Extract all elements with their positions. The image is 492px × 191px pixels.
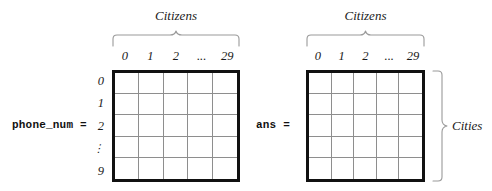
- matrix-cell: [354, 73, 377, 94]
- matrix-cell: [309, 137, 332, 158]
- matrix-cell: [188, 73, 212, 94]
- matrix-cell: [213, 137, 237, 158]
- matrix-cell: [332, 115, 355, 136]
- column-labels-ans: 0 1 2 ... 29: [306, 50, 425, 63]
- matrix-cell: [164, 158, 188, 179]
- matrix-phone-num: [112, 70, 240, 182]
- matrix-cell: [213, 115, 237, 136]
- top-brace-ans: [306, 31, 425, 47]
- matrix-cell: [377, 137, 400, 158]
- matrix-cell: [213, 94, 237, 115]
- matrix-cell: [139, 137, 163, 158]
- matrix-cell: [309, 115, 332, 136]
- row-label: ⋮: [86, 137, 104, 159]
- matrix-cell: [115, 115, 139, 136]
- column-label: ...: [377, 50, 401, 63]
- matrix-cell: [188, 115, 212, 136]
- row-label: 2: [86, 115, 104, 137]
- matrix-cell: [309, 158, 332, 179]
- matrix-cell: [164, 73, 188, 94]
- matrix-cell: [354, 137, 377, 158]
- column-label: 0: [306, 50, 330, 63]
- column-label: 29: [214, 50, 240, 63]
- column-label: 2: [354, 50, 378, 63]
- matrix-cell: [354, 94, 377, 115]
- matrix-cell: [115, 137, 139, 158]
- side-axis-title-ans: Cities: [452, 118, 482, 134]
- row-labels-phone-num: 0 1 2 ⋮ 9: [86, 70, 104, 182]
- matrix-cell: [377, 73, 400, 94]
- column-label: 1: [138, 50, 164, 63]
- column-label: ...: [189, 50, 215, 63]
- column-label: 0: [112, 50, 138, 63]
- matrix-cell: [164, 94, 188, 115]
- row-label: 9: [86, 160, 104, 182]
- matrix-cell: [309, 94, 332, 115]
- figure-canvas: Citizens 0 1 2 ... 29 phone_num = 0 1 2 …: [0, 0, 492, 191]
- row-label: 1: [86, 92, 104, 114]
- column-label: 2: [163, 50, 189, 63]
- matrix-cell: [213, 158, 237, 179]
- matrix-cell: [332, 94, 355, 115]
- variable-label-ans: ans =: [256, 119, 290, 131]
- row-label: 0: [86, 70, 104, 92]
- matrix-cell: [188, 137, 212, 158]
- matrix-cell: [399, 115, 422, 136]
- matrix-cell: [115, 158, 139, 179]
- matrix-ans: [306, 70, 425, 182]
- matrix-cell: [139, 94, 163, 115]
- matrix-cell: [332, 158, 355, 179]
- top-axis-title-ans: Citizens: [306, 8, 425, 24]
- matrix-cell: [399, 73, 422, 94]
- matrix-cell: [115, 94, 139, 115]
- matrix-cell: [164, 115, 188, 136]
- matrix-cell: [354, 158, 377, 179]
- variable-label-phone-num: phone_num =: [12, 119, 87, 131]
- matrix-cell: [399, 158, 422, 179]
- matrix-cell: [164, 137, 188, 158]
- matrix-cell: [139, 115, 163, 136]
- column-labels-phone-num: 0 1 2 ... 29: [112, 50, 240, 63]
- matrix-cell: [377, 94, 400, 115]
- matrix-cell: [139, 158, 163, 179]
- column-label: 29: [401, 50, 425, 63]
- matrix-cell: [399, 94, 422, 115]
- matrix-cell: [115, 73, 139, 94]
- side-brace-ans: [432, 70, 448, 182]
- matrix-cell: [377, 158, 400, 179]
- matrix-cell: [332, 137, 355, 158]
- column-label: 1: [330, 50, 354, 63]
- matrix-cell: [309, 73, 332, 94]
- matrix-cell: [354, 115, 377, 136]
- matrix-cell: [188, 94, 212, 115]
- top-brace-phone-num: [112, 31, 240, 47]
- matrix-cell: [332, 73, 355, 94]
- matrix-cell: [399, 137, 422, 158]
- matrix-cell: [377, 115, 400, 136]
- matrix-cell: [139, 73, 163, 94]
- top-axis-title-phone-num: Citizens: [112, 8, 240, 24]
- matrix-cell: [213, 73, 237, 94]
- matrix-cell: [188, 158, 212, 179]
